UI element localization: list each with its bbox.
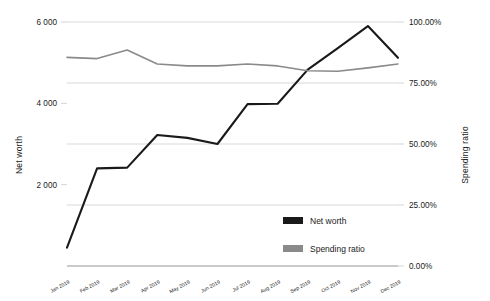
- series-line-net-worth: [67, 26, 398, 248]
- right-tick-label: 50.00%: [409, 140, 437, 149]
- x-tick-label: Jun 2019: [200, 279, 221, 294]
- left-tick-label: 6 000: [37, 18, 58, 27]
- x-tick-label: Oct 2019: [320, 279, 341, 294]
- x-tick-label: Sep 2019: [289, 279, 311, 295]
- x-tick-label: May 2019: [168, 279, 191, 295]
- x-tick-label: Nov 2019: [349, 279, 371, 295]
- right-tick-label: 0.00%: [409, 262, 432, 271]
- series-lines: [67, 26, 398, 248]
- right-tick-label: 75.00%: [409, 79, 437, 88]
- left-axis-title: Net worth: [14, 136, 24, 174]
- left-axis-ticks: 2 0004 0006 000: [37, 18, 68, 190]
- left-tick-label: 2 000: [37, 181, 58, 190]
- chart-legend: Net worthSpending ratio: [283, 216, 365, 254]
- x-tick-label: Jul 2019: [231, 279, 251, 293]
- x-tick-label: Aug 2019: [259, 279, 281, 295]
- legend-swatch: [283, 217, 303, 224]
- x-axis-tick-labels: Jan 2019Feb 2019Mar 2019Apr 2019May 2019…: [49, 279, 401, 295]
- right-tick-label: 25.00%: [409, 201, 437, 210]
- x-tick-label: Jan 2019: [49, 279, 70, 294]
- legend-label: Spending ratio: [310, 244, 365, 254]
- x-tick-label: Dec 2019: [379, 279, 401, 295]
- combo-line-chart: 2 0004 0006 000 0.00%25.00%50.00%75.00%1…: [0, 0, 490, 301]
- right-tick-label: 100.00%: [409, 18, 441, 27]
- legend-swatch: [283, 245, 303, 252]
- right-axis-title: Spending ratio: [460, 126, 470, 184]
- right-axis-ticks: 0.00%25.00%50.00%75.00%100.00%: [398, 18, 441, 271]
- x-tick-label: Mar 2019: [109, 279, 131, 294]
- left-tick-label: 4 000: [37, 99, 58, 108]
- gridlines: [67, 22, 398, 266]
- legend-label: Net worth: [310, 216, 347, 226]
- x-tick-label: Feb 2019: [79, 279, 101, 294]
- chart-container: 2 0004 0006 000 0.00%25.00%50.00%75.00%1…: [0, 0, 490, 301]
- x-tick-label: Apr 2019: [140, 279, 161, 294]
- series-line-spending-ratio: [67, 50, 398, 71]
